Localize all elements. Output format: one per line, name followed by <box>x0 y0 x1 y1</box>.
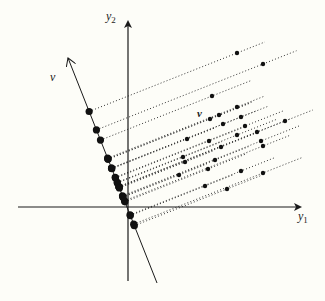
projection-line <box>108 104 249 160</box>
projection-line <box>100 81 251 141</box>
data-point <box>243 124 247 128</box>
data-points <box>177 51 287 191</box>
y1-axis-label: y1 <box>297 209 308 225</box>
projection-line <box>134 158 302 225</box>
cloud-label: v <box>197 107 202 119</box>
projection-line <box>130 158 274 215</box>
data-point <box>225 187 229 191</box>
projection-line <box>119 151 212 188</box>
projection-line <box>112 111 257 168</box>
data-point <box>207 139 211 143</box>
data-point <box>183 160 187 164</box>
data-point <box>208 117 212 121</box>
projection-line <box>108 96 265 158</box>
projection-line <box>119 134 254 188</box>
data-point <box>235 105 239 109</box>
projection-line <box>123 147 249 197</box>
v-axis-label: v <box>50 70 56 84</box>
data-point <box>219 145 223 149</box>
data-point <box>261 171 265 175</box>
data-point <box>259 139 263 143</box>
projected-points <box>86 108 138 229</box>
data-point <box>177 173 181 177</box>
projected-point <box>97 137 104 144</box>
y2-axis-label: y2 <box>105 9 116 25</box>
data-point <box>206 167 210 171</box>
data-point <box>181 155 185 159</box>
projection-line <box>112 106 269 168</box>
projected-point <box>86 108 93 115</box>
projection-line <box>134 176 260 226</box>
data-point <box>255 130 259 134</box>
data-point <box>261 144 265 148</box>
data-point <box>213 158 217 162</box>
projection-line <box>123 164 207 197</box>
projected-point <box>93 126 100 133</box>
projection-line <box>115 128 242 178</box>
projected-point <box>127 212 134 219</box>
data-point <box>185 137 189 141</box>
data-point <box>210 94 214 98</box>
projected-point <box>108 165 115 172</box>
data-point <box>261 62 265 66</box>
projection-line <box>112 128 215 169</box>
data-point <box>283 119 287 123</box>
projected-point <box>131 222 138 229</box>
projected-point <box>116 184 123 191</box>
data-point <box>203 184 207 188</box>
data-point <box>239 169 243 173</box>
data-point <box>217 113 221 117</box>
data-point <box>235 51 239 55</box>
data-point <box>239 115 243 119</box>
data-point <box>235 133 239 137</box>
projection-line <box>130 175 233 216</box>
projection-diagram: y1 y2 v v <box>0 0 325 301</box>
projected-point <box>104 156 111 163</box>
projected-point <box>119 194 126 201</box>
data-point <box>221 122 225 126</box>
projection-line <box>115 111 284 178</box>
projection-line <box>123 126 301 196</box>
projection-line <box>119 119 291 187</box>
